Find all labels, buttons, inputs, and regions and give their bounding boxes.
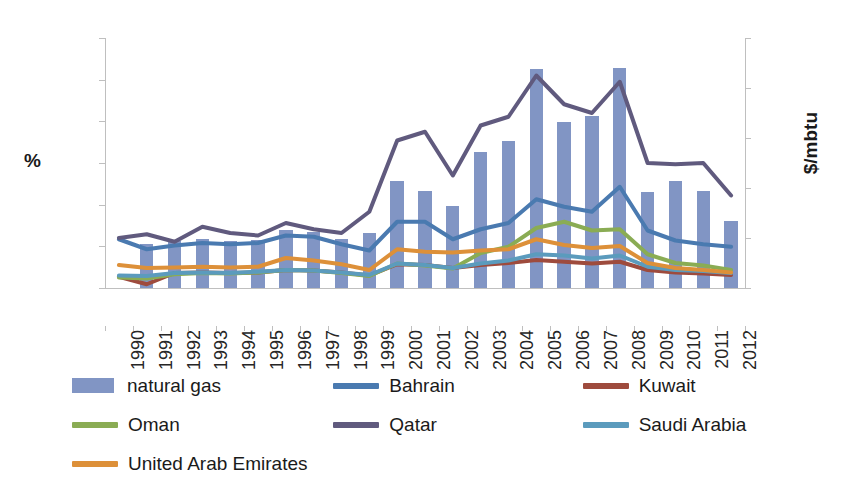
x-tick-mark xyxy=(188,326,189,331)
legend-item-bahrain[interactable]: Bahrain xyxy=(333,375,582,397)
legend-row: natural gasBahrainKuwait xyxy=(72,366,812,405)
x-axis-line xyxy=(105,288,745,289)
x-tick-label: 2008 xyxy=(629,330,650,370)
legend-label: Qatar xyxy=(389,414,437,436)
y-tick-mark-right xyxy=(745,88,751,89)
x-tick-mark xyxy=(467,326,468,331)
y-tick-mark-right xyxy=(745,188,751,189)
chart-container: % $/mbtu 051015202530 0246810 1990199119… xyxy=(0,0,856,491)
x-tick-mark xyxy=(522,326,523,331)
x-tick-label: 2009 xyxy=(657,330,678,370)
y-tick-mark-right xyxy=(745,238,751,239)
x-tick-label: 2002 xyxy=(462,330,483,370)
legend-label: Bahrain xyxy=(389,375,455,397)
x-tick-mark xyxy=(272,326,273,331)
x-tick-label: 1995 xyxy=(267,330,288,370)
x-tick-mark xyxy=(662,326,663,331)
y-tick-mark-right xyxy=(745,138,751,139)
x-tick-label: 2000 xyxy=(406,330,427,370)
x-tick-mark xyxy=(105,326,106,331)
x-tick-label: 2012 xyxy=(740,330,761,370)
x-tick-mark xyxy=(689,326,690,331)
line-series-group xyxy=(105,38,745,288)
legend-row: United Arab Emirates xyxy=(72,444,812,483)
x-tick-label: 2011 xyxy=(712,330,733,369)
legend-swatch-line-icon xyxy=(72,461,118,467)
legend-swatch-bar-icon xyxy=(72,378,114,393)
legend-item-united-arab-emirates[interactable]: United Arab Emirates xyxy=(72,453,334,475)
legend-swatch-line-icon xyxy=(333,383,379,389)
x-tick-mark xyxy=(745,326,746,331)
x-tick-mark xyxy=(300,326,301,331)
x-tick-mark xyxy=(411,326,412,331)
x-tick-label: 2001 xyxy=(434,330,455,370)
x-tick-mark xyxy=(133,326,134,331)
legend-swatch-line-icon xyxy=(333,422,379,428)
y-tick-mark-left xyxy=(99,288,105,289)
x-tick-mark xyxy=(606,326,607,331)
x-tick-mark xyxy=(161,326,162,331)
x-tick-mark xyxy=(717,326,718,331)
legend-swatch-line-icon xyxy=(72,422,118,428)
x-tick-label: 1993 xyxy=(211,330,232,370)
legend-swatch-line-icon xyxy=(583,383,629,389)
x-tick-label: 1999 xyxy=(378,330,399,370)
x-tick-label: 2006 xyxy=(573,330,594,370)
line-series-bahrain xyxy=(119,187,731,251)
x-tick-label: 1997 xyxy=(323,330,344,370)
x-tick-label: 2004 xyxy=(517,330,538,370)
x-tick-mark xyxy=(634,326,635,331)
x-tick-label: 1990 xyxy=(128,330,149,370)
x-tick-mark xyxy=(244,326,245,331)
legend-label: United Arab Emirates xyxy=(128,453,308,475)
chart-legend: natural gasBahrainKuwaitOmanQatarSaudi A… xyxy=(72,366,812,483)
x-tick-mark xyxy=(495,326,496,331)
x-tick-label: 2003 xyxy=(490,330,511,370)
legend-swatch-line-icon xyxy=(583,422,629,428)
legend-label: Kuwait xyxy=(639,375,696,397)
legend-item-oman[interactable]: Oman xyxy=(72,414,333,436)
x-tick-label: 1994 xyxy=(239,330,260,370)
legend-item-qatar[interactable]: Qatar xyxy=(333,414,582,436)
x-tick-label: 1992 xyxy=(184,330,205,370)
x-tick-mark xyxy=(383,326,384,331)
legend-label: natural gas xyxy=(127,375,221,397)
y-tick-mark-right xyxy=(745,288,751,289)
y-axis-label-right: $/mbtu xyxy=(800,112,822,174)
legend-row: OmanQatarSaudi Arabia xyxy=(72,405,812,444)
legend-item-saudi-arabia[interactable]: Saudi Arabia xyxy=(583,414,812,436)
legend-label: Saudi Arabia xyxy=(639,414,747,436)
legend-item-kuwait[interactable]: Kuwait xyxy=(583,375,812,397)
plot-area: 051015202530 0246810 1990199119921993199… xyxy=(105,38,745,288)
y-axis-label-left: % xyxy=(24,150,41,172)
x-tick-mark xyxy=(550,326,551,331)
x-tick-mark xyxy=(578,326,579,331)
y-tick-mark-right xyxy=(745,38,751,39)
x-tick-mark xyxy=(216,326,217,331)
x-tick-label: 1998 xyxy=(351,330,372,370)
x-tick-mark xyxy=(328,326,329,331)
right-axis-line xyxy=(745,38,746,288)
x-tick-label: 2010 xyxy=(684,330,705,370)
legend-label: Oman xyxy=(128,414,180,436)
x-tick-label: 1991 xyxy=(156,330,177,370)
legend-item-natural-gas[interactable]: natural gas xyxy=(72,375,333,397)
x-tick-mark xyxy=(439,326,440,331)
x-tick-label: 1996 xyxy=(295,330,316,370)
x-tick-mark xyxy=(355,326,356,331)
x-tick-label: 2005 xyxy=(545,330,566,370)
x-tick-label: 2007 xyxy=(601,330,622,370)
